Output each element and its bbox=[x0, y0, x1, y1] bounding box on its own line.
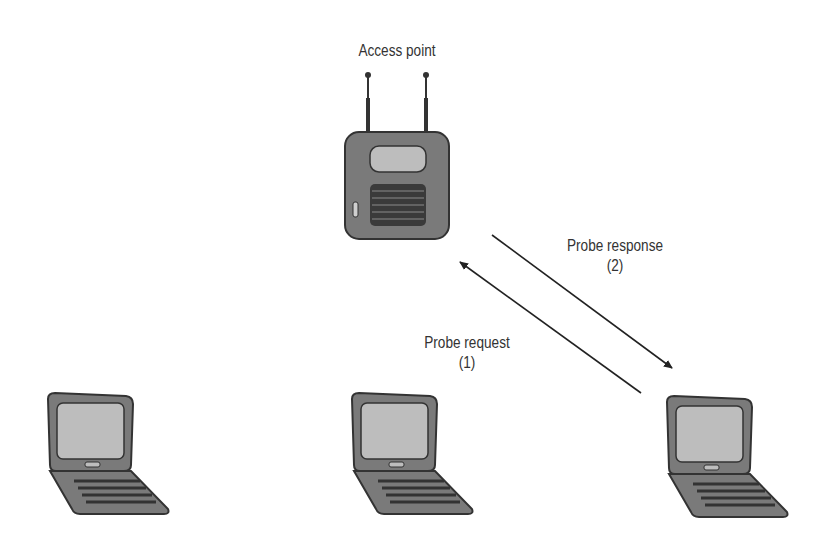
probe-request-arrow bbox=[460, 262, 641, 393]
laptop-icon-center bbox=[352, 393, 473, 514]
diagram-canvas bbox=[0, 0, 827, 553]
probe-request-step: (1) bbox=[395, 353, 540, 373]
access-point-icon bbox=[345, 72, 449, 239]
probe-request-text: Probe request bbox=[395, 333, 540, 353]
access-point-label: Access point bbox=[329, 41, 465, 61]
probe-response-label: Probe response (2) bbox=[543, 236, 688, 276]
laptop-icon-left bbox=[48, 393, 169, 514]
probe-request-label: Probe request (1) bbox=[395, 333, 540, 373]
probe-response-step: (2) bbox=[543, 256, 688, 276]
probe-response-text: Probe response bbox=[543, 236, 688, 256]
laptop-icon-right bbox=[667, 396, 788, 517]
